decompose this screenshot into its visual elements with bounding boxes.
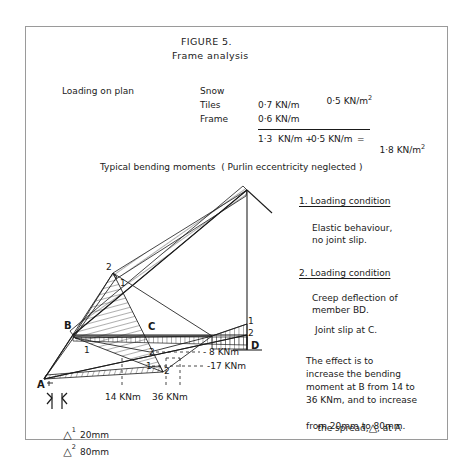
spread-annotation-2: △280mm xyxy=(43,423,109,471)
delta-subscript-2: 2 xyxy=(72,443,76,451)
effect-line-4: 36 KNm, and to increase xyxy=(306,394,417,407)
node-label-A: A xyxy=(37,379,45,391)
node-label-C: C xyxy=(148,321,155,333)
condition-2-heading: 2. Loading condition xyxy=(299,268,390,278)
effect-line-1: The effect is to xyxy=(306,355,373,368)
case-marker-1-C: 1 xyxy=(146,361,152,371)
moment-value-case1: -17 KNm xyxy=(207,361,246,371)
node-label-D: D xyxy=(251,340,259,352)
case-marker-2-base: 2 xyxy=(164,366,170,376)
case-marker-2-D: 2 xyxy=(248,328,254,338)
condition-1-heading: 1. Loading condition xyxy=(299,196,390,206)
base-dimension-36: 36 KNm xyxy=(152,392,188,402)
figure-page: FIGURE 5. Frame analysis Loading on plan… xyxy=(0,0,468,471)
case-marker-1-B: 1 xyxy=(84,345,90,355)
condition-2-line-2: member BD. xyxy=(312,304,369,317)
effect-line-3: moment at B from 14 to xyxy=(306,381,415,394)
support-ticks-A xyxy=(47,381,53,386)
base-dimension-14: 14 KNm xyxy=(105,392,141,402)
effect-line-2: increase the bending xyxy=(306,368,401,381)
moment-area-rafter-2 xyxy=(113,190,247,279)
case-marker-1-rafter: 1 xyxy=(120,278,126,288)
node-label-B: B xyxy=(64,320,72,332)
case-marker-1-D: 1 xyxy=(248,316,254,326)
moment-value-case2: - 8 KNm xyxy=(203,347,239,357)
case-marker-2-rafter: 2 xyxy=(106,262,112,272)
spread-value-2: 80mm xyxy=(80,447,109,457)
case-marker-2-C: 2 xyxy=(149,347,155,357)
delta-icon: △ xyxy=(63,445,71,458)
effect-line-6: from 20mm to 80mm. xyxy=(306,420,405,433)
condition-1-line-2: no joint slip. xyxy=(312,234,367,247)
condition-2-joint-slip: Joint slip at C. xyxy=(315,324,377,337)
